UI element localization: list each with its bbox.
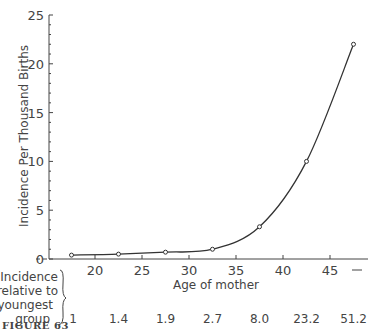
data-point [305, 159, 309, 163]
relative-incidence-value: 23.2 [293, 312, 320, 326]
data-point [70, 253, 74, 257]
y-axis-label: Incidence Per Thousand Births [17, 45, 31, 227]
data-point [164, 250, 168, 254]
figure-label: FIGURE 63 [2, 320, 69, 331]
x-ticks: 202530354045 [87, 255, 362, 278]
relative-incidence-value: 1 [69, 312, 77, 326]
data-point [117, 252, 121, 256]
x-axis-label: Age of mother [173, 278, 259, 292]
x-tick-label: 20 [87, 263, 104, 278]
relative-incidence-value: 8.0 [250, 312, 269, 326]
relative-incidence-value: 2.7 [203, 312, 222, 326]
relative-incidence-value: 1.4 [109, 312, 128, 326]
data-point [258, 225, 262, 229]
data-line [72, 44, 354, 255]
chart: 0510152025 202530354045 Incidence Per Th… [0, 0, 381, 332]
y-tick-label: 25 [27, 8, 44, 23]
y-tick-label: 5 [36, 203, 44, 218]
svg-text:relative to: relative to [0, 284, 58, 298]
relative-incidence-label: Incidence relative to youngest group [0, 270, 66, 326]
relative-incidence-value: 1.9 [156, 312, 175, 326]
x-tick-label: 40 [275, 263, 292, 278]
svg-text:youngest: youngest [0, 298, 53, 312]
brace [58, 270, 66, 325]
x-tick-label: 45 [322, 263, 339, 278]
relative-incidence-values: 11.41.92.78.023.251.2 [69, 312, 367, 326]
x-tick-label: 35 [228, 263, 245, 278]
data-point [211, 247, 215, 251]
x-tick-label: 25 [134, 263, 151, 278]
relative-incidence-value: 51.2 [340, 312, 367, 326]
x-tick-label: 30 [181, 263, 198, 278]
svg-text:Incidence: Incidence [0, 270, 58, 284]
data-point [352, 42, 356, 46]
